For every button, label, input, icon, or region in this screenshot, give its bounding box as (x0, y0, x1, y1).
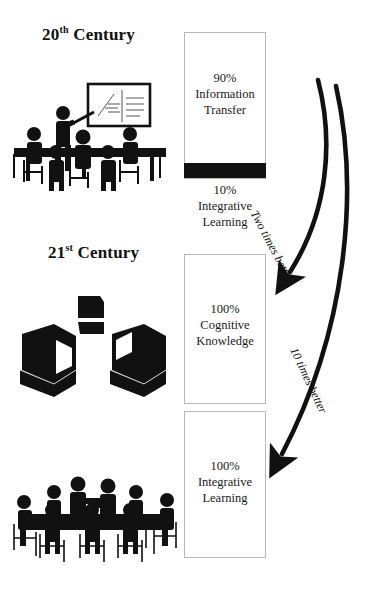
heading-21st-word: Century (73, 243, 139, 262)
heading-20th-superscript: th (59, 24, 68, 35)
diagram-canvas: 20th Century (0, 0, 366, 595)
classroom-lecture-icon (8, 82, 178, 192)
heading-20th-number: 20 (42, 25, 59, 44)
heading-20th-century: 20th Century (42, 25, 135, 45)
two-times-better-arrow (290, 80, 326, 272)
roundtable-collaboration-icon (12, 462, 180, 567)
heading-21st-century: 21st Century (48, 243, 139, 263)
heading-21st-superscript: st (65, 242, 73, 253)
computer-workstations-icon (14, 292, 174, 397)
comparison-arrows-group (250, 72, 366, 502)
heading-21st-number: 21 (48, 243, 65, 262)
heading-20th-word: Century (69, 25, 135, 44)
